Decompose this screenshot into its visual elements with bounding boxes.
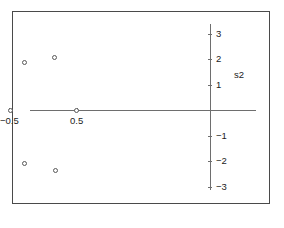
y-tick-mark xyxy=(208,161,212,162)
y-tick-label: 1 xyxy=(216,80,221,90)
y-axis-line xyxy=(210,24,211,190)
data-point xyxy=(74,108,79,113)
data-point xyxy=(53,168,58,173)
data-point xyxy=(8,108,13,113)
data-point xyxy=(22,60,27,65)
y-tick-label: −2 xyxy=(216,156,227,166)
y-tick-mark xyxy=(208,187,212,188)
scatter-plot-figure: −2.5−2−1.5−1−0.50.5 321−1−2−3 s1 s2 xyxy=(0,0,284,228)
data-point xyxy=(22,161,27,166)
y-tick-mark xyxy=(208,34,212,35)
plot-area: −2.5−2−1.5−1−0.50.5 321−1−2−3 s1 s2 xyxy=(12,11,270,204)
data-point xyxy=(52,55,57,60)
y-tick-mark xyxy=(208,85,212,86)
y-axis-label: s2 xyxy=(234,70,244,80)
y-tick-label: 3 xyxy=(216,29,221,39)
x-axis-line xyxy=(30,110,256,111)
y-tick-label: 2 xyxy=(216,54,221,64)
y-tick-label: −3 xyxy=(216,182,227,192)
y-tick-label: −1 xyxy=(216,131,227,141)
y-tick-mark xyxy=(208,136,212,137)
y-tick-mark xyxy=(208,59,212,60)
x-tick-label: −0.5 xyxy=(0,116,19,126)
x-tick-label: 0.5 xyxy=(70,116,83,126)
